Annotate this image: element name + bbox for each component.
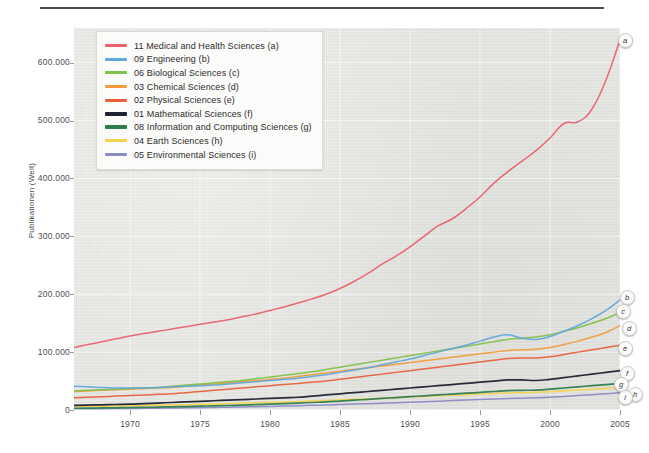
endpoint-badge-e[interactable]: e bbox=[618, 341, 633, 356]
x-tick-mark-2 bbox=[270, 410, 271, 415]
x-tick-label-4: 1990 bbox=[380, 419, 440, 429]
legend-label-e: 02 Physical Sciences (e) bbox=[134, 95, 235, 105]
endpoint-badge-a[interactable]: a bbox=[618, 33, 633, 48]
y-tick-mark-0 bbox=[70, 410, 74, 411]
x-tick-label-6: 2000 bbox=[520, 419, 580, 429]
legend-item-f[interactable]: 01 Mathematical Sciences (f) bbox=[105, 107, 312, 121]
x-tick-label-7: 2005 bbox=[590, 419, 649, 429]
legend-item-i[interactable]: 05 Environmental Sciences (i) bbox=[105, 148, 312, 162]
y-tick-label-6: 600.000 bbox=[10, 57, 70, 67]
endpoint-badge-c[interactable]: c bbox=[616, 304, 631, 319]
legend-item-h[interactable]: 04 Earth Sciences (h) bbox=[105, 134, 312, 148]
legend-swatch-b bbox=[105, 58, 127, 61]
x-tick-mark-5 bbox=[480, 410, 481, 415]
legend-label-c: 06 Biological Sciences (c) bbox=[134, 68, 240, 78]
legend-label-b: 09 Engineering (b) bbox=[134, 54, 210, 64]
top-divider-rule bbox=[40, 7, 604, 9]
y-tick-label-0: 0 bbox=[10, 405, 70, 415]
y-tick-label-4: 400.000 bbox=[10, 173, 70, 183]
legend-label-h: 04 Earth Sciences (h) bbox=[134, 136, 223, 146]
y-axis-ticks: 0100.000200.000300.000400.000500.000600.… bbox=[0, 0, 70, 453]
x-tick-label-1: 1975 bbox=[170, 419, 230, 429]
x-tick-label-0: 1970 bbox=[100, 419, 160, 429]
legend-swatch-e bbox=[105, 99, 127, 102]
endpoint-badge-b[interactable]: b bbox=[620, 290, 635, 305]
top-cutoff-text bbox=[100, 0, 400, 6]
legend-label-f: 01 Mathematical Sciences (f) bbox=[134, 109, 253, 119]
y-tick-label-3: 300.000 bbox=[10, 231, 70, 241]
legend-swatch-i bbox=[105, 153, 127, 156]
legend-item-a[interactable]: 11 Medical and Health Sciences (a) bbox=[105, 39, 312, 53]
legend-item-d[interactable]: 03 Chemical Sciences (d) bbox=[105, 80, 312, 94]
y-tick-label-1: 100.000 bbox=[10, 347, 70, 357]
legend-label-d: 03 Chemical Sciences (d) bbox=[134, 82, 239, 92]
legend-label-i: 05 Environmental Sciences (i) bbox=[134, 150, 256, 160]
x-tick-mark-0 bbox=[130, 410, 131, 415]
legend-item-g[interactable]: 08 Information and Computing Sciences (g… bbox=[105, 121, 312, 135]
endpoint-badge-d[interactable]: d bbox=[622, 321, 637, 336]
legend-swatch-d bbox=[105, 85, 127, 88]
legend-swatch-a bbox=[105, 44, 127, 47]
legend-swatch-g bbox=[105, 125, 127, 129]
x-tick-mark-1 bbox=[200, 410, 201, 415]
y-tick-label-5: 500.000 bbox=[10, 115, 70, 125]
legend-swatch-c bbox=[105, 71, 127, 74]
legend-item-b[interactable]: 09 Engineering (b) bbox=[105, 53, 312, 67]
series-line-b[interactable] bbox=[74, 300, 620, 388]
x-tick-label-2: 1980 bbox=[240, 419, 300, 429]
x-tick-mark-7 bbox=[620, 410, 621, 415]
x-tick-label-5: 1995 bbox=[450, 419, 510, 429]
legend-item-c[interactable]: 06 Biological Sciences (c) bbox=[105, 66, 312, 80]
chart-legend: 11 Medical and Health Sciences (a)09 Eng… bbox=[96, 31, 323, 170]
x-tick-label-3: 1985 bbox=[310, 419, 370, 429]
y-tick-label-2: 200.000 bbox=[10, 289, 70, 299]
x-tick-mark-6 bbox=[550, 410, 551, 415]
legend-label-g: 08 Information and Computing Sciences (g… bbox=[134, 122, 312, 132]
legend-item-e[interactable]: 02 Physical Sciences (e) bbox=[105, 93, 312, 107]
x-tick-mark-3 bbox=[340, 410, 341, 415]
legend-swatch-h bbox=[105, 139, 127, 142]
legend-label-a: 11 Medical and Health Sciences (a) bbox=[134, 41, 279, 51]
x-tick-mark-4 bbox=[410, 410, 411, 415]
endpoint-badge-i[interactable]: i bbox=[618, 390, 633, 405]
legend-swatch-f bbox=[105, 112, 127, 116]
